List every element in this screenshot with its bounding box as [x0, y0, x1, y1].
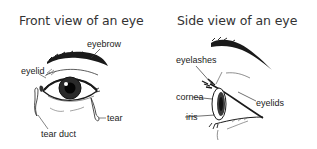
label-eyelashes: eyelashes	[176, 55, 217, 65]
side-eye-illustration	[160, 0, 317, 149]
label-eyelid: eyelid	[21, 66, 45, 76]
label-eyebrow: eyebrow	[87, 39, 121, 49]
side-view-panel: Side view of an eye eyelashes	[160, 0, 317, 149]
label-tear-duct: tear duct	[41, 129, 76, 139]
front-view-panel: Front view of an eye	[0, 0, 160, 149]
label-eyelids: eyelids	[256, 98, 284, 108]
label-tear: tear	[107, 113, 123, 123]
label-cornea: cornea	[176, 92, 204, 102]
label-iris: iris	[186, 112, 198, 122]
